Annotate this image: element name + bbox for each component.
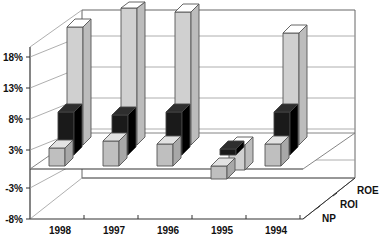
x-tick-label: 1994	[265, 225, 288, 236]
x-tick-label: 1995	[211, 225, 234, 236]
series-label-roe: ROE	[357, 185, 379, 196]
bar-1998-np	[49, 140, 73, 166]
x-tick-label: 1998	[49, 225, 72, 236]
chart-container: 18% 13% 8% 3% -3% -8% 1998 1997 1996 199…	[0, 0, 383, 245]
y-tick-label: 3%	[9, 145, 24, 156]
x-tick-label: 1997	[103, 225, 126, 236]
y-tick-label: 18%	[3, 52, 23, 63]
bar-1994-np	[265, 136, 289, 166]
series-label-np: NP	[322, 213, 336, 224]
y-tick-label: -3%	[5, 183, 23, 194]
y-tick-label: -8%	[5, 214, 23, 225]
x-tick-label: 1996	[157, 225, 180, 236]
bar-chart-3d: 18% 13% 8% 3% -3% -8% 1998 1997 1996 199…	[0, 0, 383, 245]
series-label-roi: ROI	[340, 199, 358, 210]
bar-1996-np	[157, 136, 181, 166]
y-tick-label: 13%	[3, 83, 23, 94]
y-tick-label: 8%	[9, 114, 24, 125]
bar-1997-np	[103, 133, 127, 166]
